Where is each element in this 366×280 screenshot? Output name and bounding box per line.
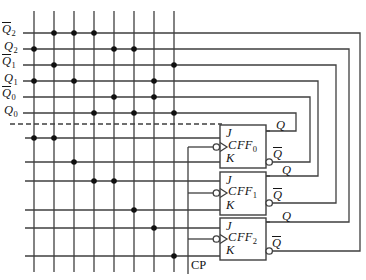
junction-dot [171,62,177,68]
clock-label-cp: CP [191,259,206,272]
ff0-name-label: FF0 [237,139,257,156]
signal-label-q2-text: Q [4,39,13,53]
signal-label-qbar1-text: Q [2,54,11,67]
junction-dot [91,30,97,36]
ff1-c-label-text: C [228,184,236,198]
ff2-c-label-text: C [228,230,236,244]
ff2-name-label-subscript: 2 [253,236,257,246]
signal-label-q0-subscript: 0 [14,109,18,119]
ff0-k-label-text: K [226,151,234,165]
logic-circuit-diagram: Q2Q2Q1Q1Q0Q0CPJCFF0KQQJCFF1KQQJCFF2KQQ [0,0,366,280]
junction-dot [91,178,97,184]
ff0-name-label-text: FF [237,138,252,152]
ff0-name-label-subscript: 0 [253,144,257,154]
ff0-qbar-output-label: Q [273,147,282,161]
junction-dot [151,225,157,231]
ff1-qbar-bubble-icon [266,200,272,206]
junction-dot [71,78,77,84]
junction-dot [131,110,137,116]
signal-label-qbar2-text: Q [2,22,11,35]
ff0-k-label: K [226,152,234,165]
ff1-clock-bubble-icon [213,190,219,196]
signal-label-qbar0-subscript: 0 [12,92,16,102]
ff2-clock-bubble-icon [213,236,219,242]
ff0-clock-bubble-icon [213,144,219,150]
ff2-name-label: FF2 [237,231,257,248]
ff1-name-label: FF1 [237,185,257,202]
ff2-q-output-label: Q [282,210,291,223]
ff1-qbar-output-label-text: Q [273,188,282,201]
signal-label-qbar2: Q2 [2,22,16,40]
signal-label-qbar1-subscript: 1 [12,60,16,70]
junction-dot [51,135,57,141]
ff2-qbar-output-label: Q [272,236,281,250]
ff0-qbar-output-label-text: Q [273,147,282,160]
ff1-q-output-label: Q [282,164,291,177]
junction-dot [111,46,117,52]
junction-dot [151,78,157,84]
junction-dot [31,46,37,52]
signal-label-q0-text: Q [4,103,13,117]
ff2-k-label-text: K [226,243,234,257]
ff0-q-output-label: Q [276,119,285,132]
ff1-qbar-output-label: Q [273,188,282,202]
junction-dot [91,110,97,116]
junction-dot [131,46,137,52]
junction-dot [131,207,137,213]
junction-dot [71,159,77,165]
feedback-wire-qbar1 [23,65,336,203]
ff1-c-label: C [228,185,236,198]
junction-dot [111,178,117,184]
feedback-wire-q2 [23,49,349,222]
signal-label-qbar0: Q0 [2,86,16,104]
ff1-k-label-text: K [226,198,234,212]
junction-dot [51,30,57,36]
signal-label-qbar1: Q1 [2,54,16,72]
junction-dot [171,110,177,116]
ff2-k-label: K [226,244,234,257]
signal-label-q0: Q0 [4,104,18,121]
ff2-q-output-label-text: Q [282,209,291,223]
feedback-wire-qbar0 [23,97,310,162]
wire-layer [0,0,366,280]
junction-dot [111,94,117,100]
ff1-q-output-label-text: Q [282,163,291,177]
signal-label-qbar0-text: Q [2,86,11,99]
signal-label-q1-text: Q [4,71,13,85]
ff0-c-label-text: C [228,138,236,152]
junction-dot [71,30,77,36]
junction-dot [51,62,57,68]
ff2-qbar-output-label-text: Q [272,236,281,249]
junction-dot [31,135,37,141]
clock-label-cp-text: CP [191,258,206,272]
ff0-qbar-bubble-icon [266,159,272,165]
junction-dot [151,94,157,100]
ff0-q-output-label-text: Q [276,118,285,132]
ff1-k-label: K [226,199,234,212]
junction-dot [171,253,177,259]
ff2-name-label-text: FF [237,230,252,244]
ff1-name-label-text: FF [237,184,252,198]
ff1-name-label-subscript: 1 [253,190,257,200]
signal-label-qbar2-subscript: 2 [12,28,16,38]
junction-dot [31,78,37,84]
